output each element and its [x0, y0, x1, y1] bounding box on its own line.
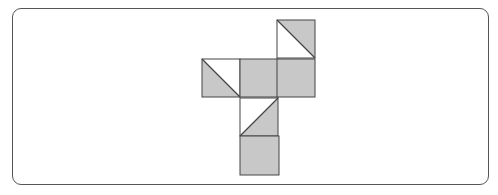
square-bottom [240, 136, 279, 175]
square-top-right [277, 20, 315, 58]
square-middle-right [277, 59, 315, 97]
square-lower [240, 98, 278, 136]
square-middle-center [240, 59, 278, 97]
cube-net-figure [0, 0, 498, 195]
square-middle-left [202, 59, 240, 97]
